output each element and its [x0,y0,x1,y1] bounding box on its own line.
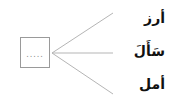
connector-line-top [52,13,113,53]
answer-placeholder: ..... [21,51,49,59]
option-word-2[interactable]: سَأَلَ [134,42,165,60]
option-word-1[interactable]: أرز [144,9,165,27]
connector-line-bottom [52,53,113,94]
answer-box[interactable]: ..... [20,37,50,68]
option-word-3[interactable]: أمل [139,75,165,93]
